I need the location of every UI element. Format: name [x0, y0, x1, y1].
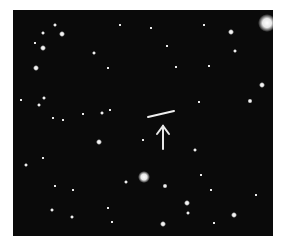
star-field-photo [13, 10, 273, 236]
star-field-canvas [13, 10, 273, 236]
